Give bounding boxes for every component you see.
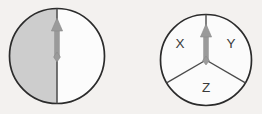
sector-label-z: Z (202, 80, 210, 95)
right-circle-group: X Y Z (161, 15, 252, 106)
diagram-canvas: X Y Z (0, 0, 262, 114)
sector-label-x: X (175, 36, 184, 51)
figure-root: X Y Z (0, 0, 262, 114)
sector-label-y: Y (226, 36, 235, 51)
left-circle-group (0, 0, 105, 114)
